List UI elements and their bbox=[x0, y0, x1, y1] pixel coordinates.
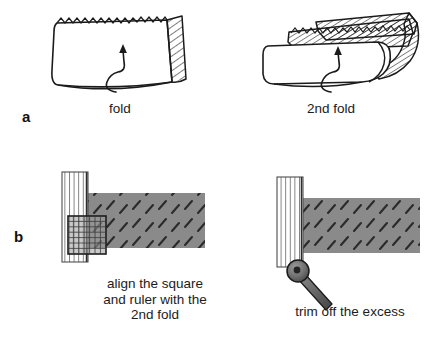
fabric-rectangle-right bbox=[288, 198, 420, 253]
figure-root: a b fold 2nd fold align the square and r… bbox=[0, 0, 444, 351]
caption-fold: fold bbox=[70, 101, 170, 117]
panel-letter-b: b bbox=[14, 228, 23, 245]
illustration-2nd-fold bbox=[263, 13, 418, 92]
ruler-left bbox=[62, 172, 88, 262]
caption-2nd-fold: 2nd fold bbox=[276, 101, 386, 117]
rotary-cutter bbox=[287, 260, 332, 310]
caption-align-square-ruler: align the square and ruler with the 2nd … bbox=[60, 276, 250, 323]
caption-trim-excess: trim off the excess bbox=[275, 304, 425, 320]
panel-letter-a: a bbox=[22, 108, 30, 125]
illustration-trim-excess bbox=[277, 177, 420, 310]
fabric-rectangle-left bbox=[73, 193, 205, 248]
illustration-fold bbox=[52, 16, 186, 92]
quilting-square-left bbox=[68, 216, 106, 254]
ruler-right bbox=[277, 177, 303, 267]
illustration-align-square-ruler bbox=[62, 172, 205, 262]
